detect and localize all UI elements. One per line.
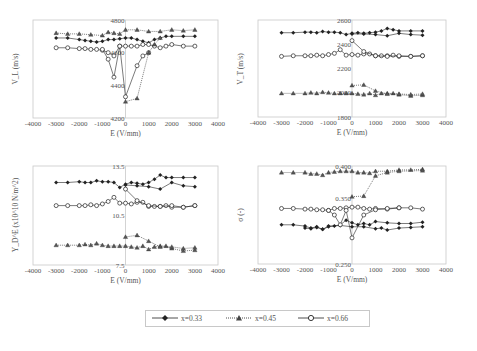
triangle-marker-icon <box>326 170 330 174</box>
x-axis-label: E (V/mm) <box>337 128 368 137</box>
diamond-marker-icon <box>124 36 128 40</box>
y-tick-label: 4400 <box>111 82 126 90</box>
diamond-marker-icon <box>135 38 139 42</box>
circle-marker-icon <box>135 64 139 68</box>
diamond-marker-icon <box>54 181 58 185</box>
triangle-marker-icon <box>303 91 307 95</box>
circle-marker-icon <box>118 201 122 205</box>
circle-marker-icon <box>66 204 70 208</box>
diamond-marker-icon <box>315 225 319 229</box>
diamond-marker-icon <box>350 225 354 229</box>
circle-marker-icon <box>66 46 70 50</box>
circle-marker-icon <box>291 54 295 58</box>
triangle-marker-icon <box>106 30 110 34</box>
x-tick-label: -4000 <box>25 120 42 128</box>
triangle-marker-icon <box>123 235 127 239</box>
diamond-marker-icon <box>100 39 104 43</box>
circle-marker-icon <box>54 204 58 208</box>
diamond-marker-icon <box>409 225 413 229</box>
diamond-marker-icon <box>95 179 99 183</box>
diamond-marker-icon <box>409 221 413 225</box>
circle-marker-icon <box>124 44 128 48</box>
y-tick-label: 4200 <box>111 115 126 123</box>
x-tick-label: -3000 <box>273 266 290 274</box>
diamond-marker-icon <box>106 38 110 42</box>
diamond-marker-icon <box>280 223 284 227</box>
circle-marker-icon <box>385 54 389 58</box>
circle-marker-icon <box>193 204 197 208</box>
circle-marker-icon <box>374 54 378 58</box>
circle-marker-icon <box>298 313 324 323</box>
diamond-marker-icon <box>147 185 151 189</box>
x-tick-label: 2000 <box>165 120 180 128</box>
circle-marker-icon <box>181 44 185 48</box>
y-axis-label: V_T (m/s) <box>236 53 245 85</box>
circle-marker-icon <box>350 39 354 43</box>
x-axis-label: E (V/mm) <box>110 129 141 138</box>
circle-marker-icon <box>124 187 128 191</box>
y-tick-label: 2200 <box>337 65 352 73</box>
triangle-marker-icon <box>170 245 174 249</box>
y-tick-label: 7.5 <box>116 262 125 270</box>
diamond-marker-icon <box>77 180 81 184</box>
diamond-marker-icon <box>135 184 139 188</box>
diamond-marker-icon <box>280 31 284 35</box>
diamond-marker-icon <box>332 30 336 34</box>
circle-marker-icon <box>129 202 133 206</box>
circle-marker-icon <box>112 195 116 199</box>
triangle-marker-icon <box>54 31 58 35</box>
diamond-marker-icon <box>409 29 413 33</box>
circle-marker-icon <box>385 206 389 210</box>
y-axis-label: Y_D^E (x10^10 N/m^2) <box>11 177 20 252</box>
diamond-marker-icon <box>106 180 110 184</box>
circle-marker-icon <box>124 201 128 205</box>
legend-label: x=0.45 <box>255 314 276 323</box>
diamond-marker-icon <box>368 223 372 227</box>
circle-marker-icon <box>100 202 104 206</box>
circle-marker-icon <box>95 47 99 51</box>
diamond-marker-icon <box>379 29 383 33</box>
diamond-marker-icon <box>147 181 151 185</box>
diamond-marker-icon <box>391 28 395 32</box>
x-axis-label: E (V/mm) <box>337 275 368 284</box>
x-tick-label: 1000 <box>369 119 384 127</box>
triangle-marker-icon <box>89 33 93 37</box>
diamond-marker-icon <box>321 227 325 231</box>
diamond-marker-icon <box>397 226 401 230</box>
triangle-marker-icon <box>170 28 174 32</box>
triangle-marker-icon <box>391 91 395 95</box>
diamond-marker-icon <box>89 181 93 185</box>
legend-label: x=0.66 <box>327 314 348 323</box>
diamond-marker-icon <box>385 34 389 38</box>
diamond-marker-icon <box>158 173 162 177</box>
diamond-marker-icon <box>141 182 145 186</box>
x-tick-label: -2000 <box>71 267 88 275</box>
triangle-marker-icon <box>279 91 283 95</box>
x-tick-label: 1000 <box>142 267 157 275</box>
x-tick-label: -1000 <box>94 120 111 128</box>
diamond-marker-icon <box>89 39 93 43</box>
circle-marker-icon <box>409 206 413 210</box>
diamond-marker-icon <box>193 34 197 38</box>
circle-marker-icon <box>106 57 110 61</box>
circle-marker-icon <box>338 48 342 52</box>
circle-marker-icon <box>356 53 360 57</box>
diamond-marker-icon <box>374 220 378 224</box>
chart-top-right: -4000-3000-2000-100001000200030004000180… <box>236 17 454 138</box>
diamond-marker-icon <box>397 221 401 225</box>
diamond-marker-icon <box>170 181 174 185</box>
diamond-marker-icon <box>170 176 174 180</box>
circle-marker-icon <box>374 208 378 212</box>
circle-marker-icon <box>332 213 336 217</box>
circle-marker-icon <box>338 223 342 227</box>
x-tick-label: 4000 <box>211 120 226 128</box>
legend-item-033: x=0.33 <box>152 313 202 323</box>
circle-marker-icon <box>350 236 354 240</box>
y-tick-label: 13.5 <box>112 163 125 171</box>
circle-marker-icon <box>147 43 151 47</box>
circle-marker-icon <box>147 204 151 208</box>
triangle-marker-icon <box>193 245 197 249</box>
diamond-marker-icon <box>409 33 413 37</box>
diamond-marker-icon <box>344 33 348 37</box>
triangle-marker-icon <box>141 244 145 248</box>
